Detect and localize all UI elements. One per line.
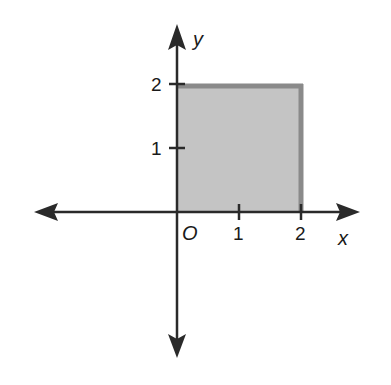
x-axis-label: x	[337, 227, 349, 249]
shaded-square-region	[177, 84, 301, 212]
y-tick-label-2: 2	[151, 74, 162, 95]
y-axis-label: y	[191, 28, 204, 50]
coordinate-plane: y x O 1 2 1 2	[0, 0, 391, 385]
origin-label: O	[182, 222, 198, 244]
x-tick-label-2: 2	[295, 223, 306, 244]
x-tick-label-1: 1	[233, 223, 244, 244]
y-tick-label-1: 1	[151, 138, 162, 159]
